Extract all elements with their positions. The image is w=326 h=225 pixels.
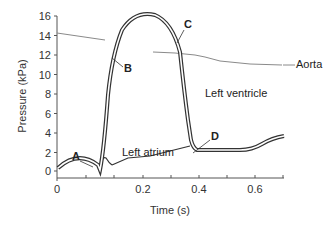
- label-left-ventricle: Left ventricle: [205, 87, 267, 99]
- y-axis-title: Pressure (kPa): [16, 59, 28, 132]
- x-axis-title: Time (s): [150, 204, 190, 216]
- y-tick-4: 4: [45, 127, 51, 139]
- y-tick-6: 6: [45, 108, 51, 120]
- marker-c: C: [184, 18, 192, 30]
- y-tick-12: 12: [39, 49, 51, 61]
- y-tick-0: 0: [45, 165, 51, 177]
- y-axis: 16 14 12 10 8 6 4 2 0 Pressure (kPa): [16, 10, 57, 178]
- marker-b: B: [124, 62, 132, 74]
- pressure-chart: 16 14 12 10 8 6 4 2 0 Pressure (kPa) 0 0…: [0, 0, 326, 225]
- label-left-atrium: Left atrium: [122, 146, 174, 158]
- arrow-c: [177, 30, 184, 43]
- x-tick-0.4: 0.4: [191, 183, 206, 195]
- y-tick-8: 8: [45, 88, 51, 100]
- y-tick-10: 10: [39, 69, 51, 81]
- x-tick-0.2: 0.2: [135, 183, 150, 195]
- marker-d: D: [211, 130, 219, 142]
- x-tick-0: 0: [54, 183, 60, 195]
- x-tick-0.6: 0.6: [247, 183, 262, 195]
- aorta-line: [57, 33, 282, 65]
- y-tick-16: 16: [39, 10, 51, 22]
- label-aorta: Aorta: [296, 58, 323, 70]
- y-tick-14: 14: [39, 30, 51, 42]
- marker-a: A: [72, 150, 80, 162]
- x-axis: 0 0.2 0.4 0.6 Time (s): [54, 175, 284, 216]
- y-tick-2: 2: [45, 147, 51, 159]
